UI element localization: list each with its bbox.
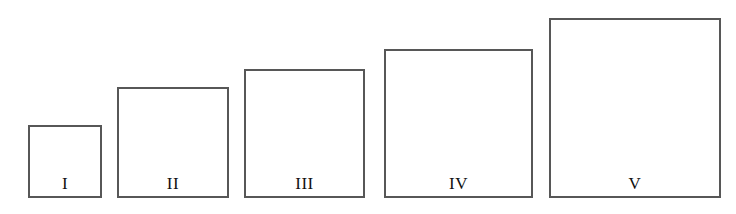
size-box-v: V bbox=[549, 18, 721, 198]
size-box-label: IV bbox=[386, 175, 531, 192]
size-box-label: II bbox=[119, 175, 227, 192]
size-box-iii: III bbox=[244, 69, 365, 198]
size-box-iv: IV bbox=[384, 49, 533, 198]
size-box-label: V bbox=[551, 175, 719, 192]
size-box-ii: II bbox=[117, 87, 229, 198]
size-box-label: III bbox=[246, 175, 363, 192]
size-box-label: I bbox=[30, 175, 100, 192]
figure-canvas: I II III IV V bbox=[0, 0, 736, 214]
size-box-i: I bbox=[28, 125, 102, 198]
